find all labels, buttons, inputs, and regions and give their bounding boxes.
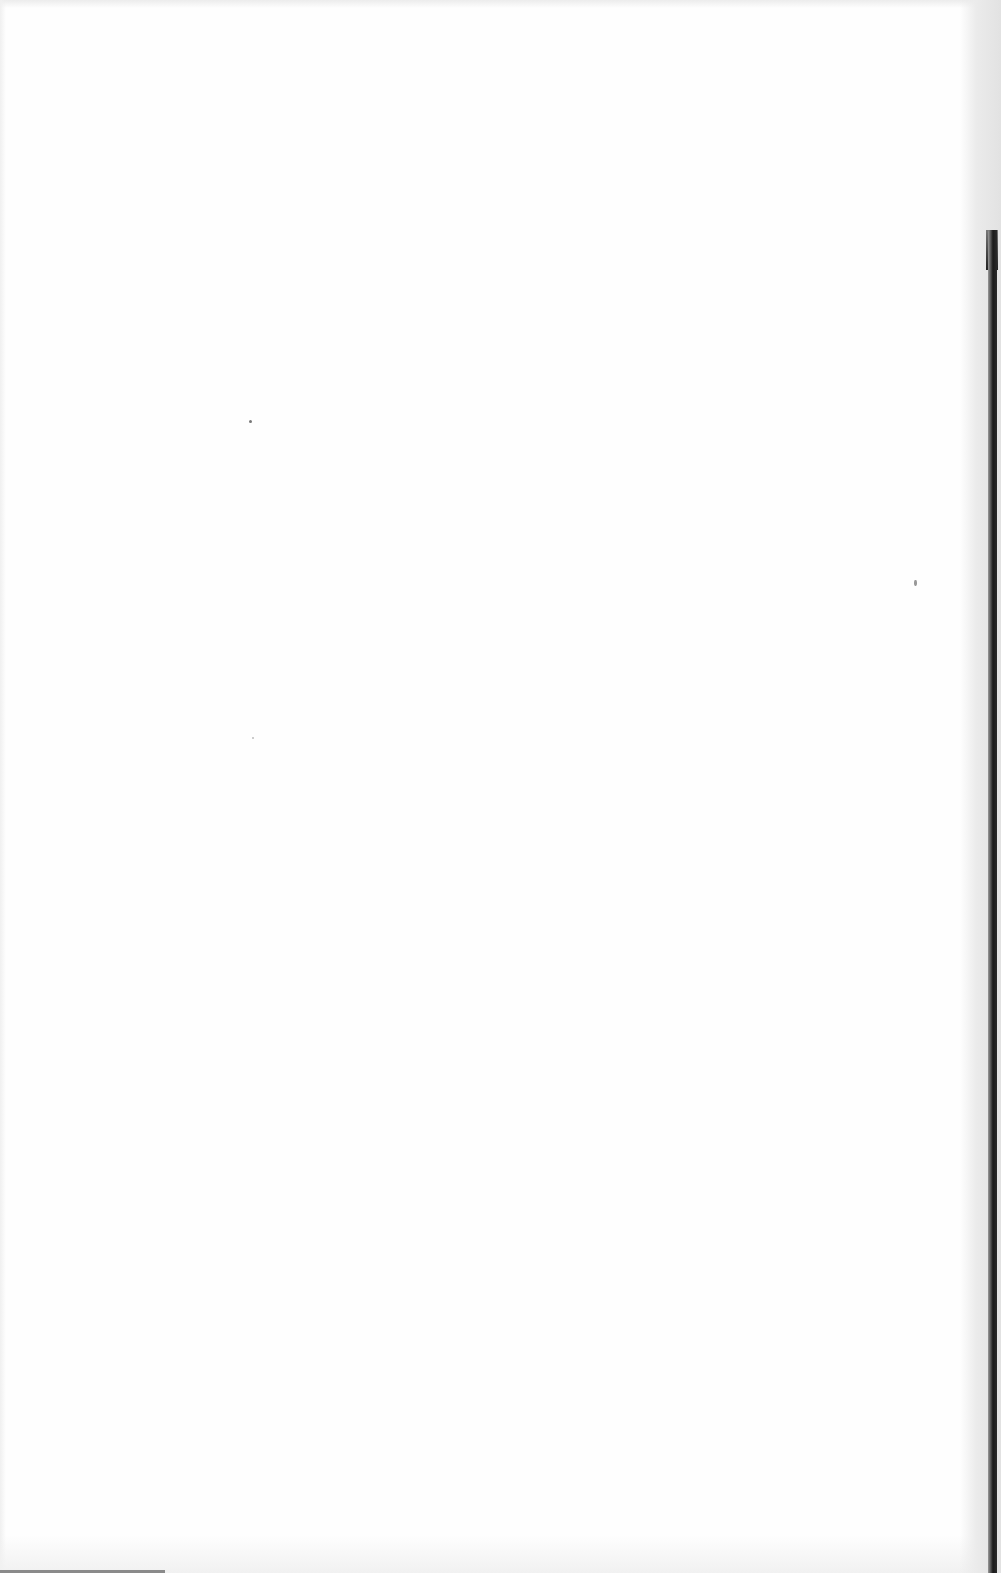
top-edge-shadow — [0, 0, 1001, 8]
left-edge-shadow — [0, 0, 6, 1573]
scan-speck — [249, 420, 252, 423]
scan-speck — [914, 580, 917, 586]
bottom-edge-shadow — [0, 1535, 1001, 1573]
blank-scanned-page — [0, 0, 1001, 1573]
book-binding-edge — [988, 230, 997, 1573]
scan-speck — [252, 737, 254, 739]
